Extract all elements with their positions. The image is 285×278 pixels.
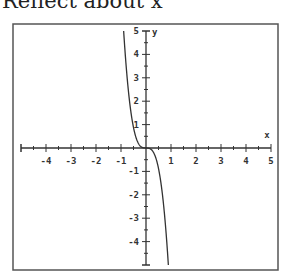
- x-tick-label: -4: [41, 156, 52, 166]
- x-axis-label: x: [264, 130, 270, 140]
- y-tick-label: 2: [134, 96, 139, 106]
- y-tick-label: -1: [128, 166, 139, 176]
- y-axis-label: y: [152, 27, 158, 37]
- y-tick-label: 1: [134, 120, 139, 130]
- y-tick-label: 5: [134, 26, 139, 36]
- x-tick-label: 1: [168, 156, 173, 166]
- x-tick-label: 3: [218, 156, 223, 166]
- y-tick-label: 3: [134, 73, 139, 83]
- x-tick-label: 2: [193, 156, 198, 166]
- x-tick-label: -3: [66, 156, 77, 166]
- x-tick-label: -1: [116, 156, 127, 166]
- y-tick-label: -3: [128, 213, 139, 223]
- y-tick-label: 4: [134, 49, 140, 59]
- y-tick-label: -4: [128, 237, 139, 247]
- chart: -4-3-2-11234554321-1-2-3-4xy: [0, 0, 285, 278]
- x-tick-label: -2: [91, 156, 102, 166]
- y-tick-label: -2: [128, 190, 139, 200]
- x-tick-label: 5: [268, 156, 273, 166]
- x-tick-label: 4: [243, 156, 249, 166]
